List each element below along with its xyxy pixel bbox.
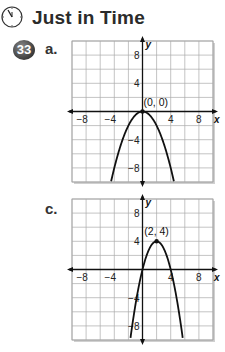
x-tick-label: −4	[105, 114, 117, 125]
x-tick-label: 8	[196, 114, 202, 125]
x-tick-label: −8	[76, 272, 88, 283]
vertex-label: (2, 4)	[144, 225, 169, 237]
vertex-point	[154, 239, 158, 243]
vertex-label: (0, 0)	[144, 96, 169, 108]
part-label-a: a.	[45, 40, 58, 57]
y-tick-label: −8	[128, 321, 140, 332]
x-axis-label: x	[213, 272, 220, 283]
x-axis-label: x	[213, 114, 220, 125]
section-title: Just in Time	[32, 7, 145, 29]
graph-c: xy−8−44884−4−8(2, 4)	[66, 194, 222, 348]
x-tick-label: −8	[76, 114, 88, 125]
vertex-point	[140, 109, 144, 113]
y-tick-label: 4	[134, 236, 140, 247]
clock-icon	[1, 6, 23, 28]
x-tick-label: 8	[196, 272, 202, 283]
y-axis-arrow-up	[140, 194, 145, 200]
section-header: Just in Time	[0, 2, 225, 32]
y-axis-arrow-up	[140, 36, 145, 42]
y-tick-label: 8	[134, 208, 140, 219]
graph-a: xy−8−44884−4−8(0, 0)	[66, 36, 222, 190]
y-tick-label: −4	[128, 135, 140, 146]
y-axis-label: y	[145, 39, 152, 50]
y-axis-label: y	[145, 197, 152, 208]
x-tick-label: 4	[168, 114, 174, 125]
y-tick-label: 8	[134, 50, 140, 61]
x-axis-arrow-left	[67, 267, 73, 272]
y-tick-label: −8	[128, 163, 140, 174]
y-tick-label: 4	[134, 78, 140, 89]
x-axis-arrow-left	[67, 109, 73, 114]
problem-number-badge: 33	[13, 40, 35, 60]
part-label-c: c.	[45, 200, 58, 217]
x-tick-label: −4	[105, 272, 117, 283]
